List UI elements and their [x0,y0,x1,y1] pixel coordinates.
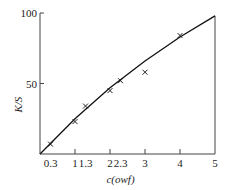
data-point-marker [73,119,78,124]
data-point-marker [48,142,53,147]
y-axis-label: K/S [12,96,24,113]
x-tick-label: 1 [72,157,78,169]
x-tick-label: 2 [107,157,113,169]
x-tick-label: 0.3 [44,157,58,169]
data-point-marker [108,88,113,93]
y-tick-label: 50 [26,78,38,90]
fit-curve [40,16,215,154]
data-point-marker [143,70,148,75]
x-tick-label: 5 [212,157,218,169]
chart: 501000.311.322.3345c(owf)K/S [0,0,225,190]
axes [40,13,215,154]
x-tick-label: 4 [177,157,183,169]
x-axis-label: c(owf) [106,173,134,186]
x-tick-label: 3 [142,157,148,169]
x-tick-label: 2.3 [114,157,128,169]
x-tick-label: 1.3 [79,157,93,169]
y-tick-label: 100 [21,7,38,19]
data-point-marker [83,104,88,109]
